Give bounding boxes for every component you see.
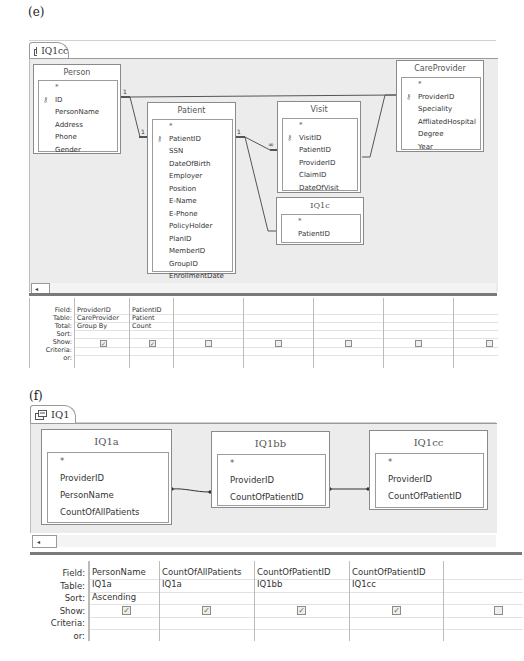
field-star[interactable]: * bbox=[39, 81, 117, 94]
table-title: CareProvider bbox=[397, 61, 483, 75]
field-star[interactable]: * bbox=[282, 215, 360, 228]
field-degree[interactable]: Degree bbox=[402, 128, 480, 141]
card-1-person: 1 bbox=[123, 88, 127, 95]
show-checkbox[interactable]: ✓ bbox=[149, 340, 156, 347]
table-iq1a[interactable]: IQ1a * ProviderID PersonName CountOfAllP… bbox=[41, 429, 172, 525]
show-checkbox[interactable] bbox=[275, 340, 282, 347]
field-star[interactable]: * bbox=[376, 454, 483, 471]
grid-column-5[interactable] bbox=[443, 561, 524, 641]
primary-key-icon: ⚷ bbox=[43, 94, 48, 107]
field-patientid[interactable]: ⚷PatientID bbox=[153, 133, 232, 146]
table-iq1c[interactable]: IQ1c * PatientID bbox=[276, 197, 364, 245]
field-countofallpatients[interactable]: CountOfAllPatients bbox=[48, 504, 168, 521]
horizontal-scrollbar-e[interactable]: ◂ bbox=[31, 283, 496, 293]
show-checkbox[interactable]: ✓ bbox=[392, 606, 401, 615]
field-personname[interactable]: PersonName bbox=[48, 487, 168, 504]
show-checkbox[interactable]: ✓ bbox=[100, 340, 107, 347]
card-1-patient: 1 bbox=[141, 128, 145, 135]
primary-key-icon: ⚷ bbox=[157, 133, 162, 146]
table-iq1cc[interactable]: IQ1cc * ProviderID CountOfPatientID bbox=[369, 430, 488, 510]
field-providerid[interactable]: ProviderID bbox=[48, 470, 168, 487]
field-star[interactable]: * bbox=[218, 455, 325, 472]
row-labels: Field: Table: Total: Sort: Show: Criteri… bbox=[30, 306, 72, 362]
show-checkbox[interactable] bbox=[345, 340, 352, 347]
field-providerid[interactable]: ⚷ProviderID bbox=[402, 91, 480, 104]
grid-column-5[interactable] bbox=[313, 298, 384, 368]
field-ssn[interactable]: SSN bbox=[153, 145, 232, 158]
table-person[interactable]: Person * ⚷ID PersonName Address Phone Ge… bbox=[33, 64, 121, 154]
show-checkbox[interactable]: ✓ bbox=[202, 606, 211, 615]
field-dateofbirth[interactable]: DateOfBirth bbox=[153, 158, 232, 171]
field-star[interactable]: * bbox=[153, 120, 232, 133]
table-title: Patient bbox=[148, 103, 235, 117]
field-gender[interactable]: Gender bbox=[39, 144, 117, 157]
pane-splitter-e[interactable] bbox=[29, 293, 497, 296]
table-title: IQ1a bbox=[42, 430, 171, 452]
horizontal-scrollbar-f[interactable]: ◂ bbox=[32, 535, 496, 547]
field-star[interactable]: * bbox=[402, 78, 480, 91]
field-countofpatientid[interactable]: CountOfPatientID bbox=[218, 489, 325, 506]
grid-column-2[interactable]: PatientID Patient Count ✓ bbox=[129, 298, 174, 368]
table-iq1bb[interactable]: IQ1bb * ProviderID CountOfPatientID bbox=[211, 431, 330, 508]
grid-column-2[interactable]: CountOfAllPatients IQ1a ✓ bbox=[159, 561, 255, 641]
query-grid-e: Field: Table: Total: Sort: Show: Criteri… bbox=[29, 298, 498, 368]
field-enrollmentdate[interactable]: EnrollmentDate bbox=[153, 270, 232, 283]
field-providerid[interactable]: ProviderID bbox=[283, 157, 357, 170]
field-dateofvisit[interactable]: DateOfVisit bbox=[283, 182, 357, 195]
grid-column-6[interactable] bbox=[383, 298, 454, 368]
pane-splitter-f[interactable] bbox=[30, 552, 522, 555]
grid-column-3[interactable]: CountOfPatientID IQ1bb ✓ bbox=[254, 561, 350, 641]
field-providerid[interactable]: ProviderID bbox=[218, 472, 325, 489]
field-groupid[interactable]: GroupID bbox=[153, 258, 232, 271]
table-patient[interactable]: Patient * ⚷PatientID SSN DateOfBirth Emp… bbox=[147, 102, 236, 274]
field-policyholder[interactable]: PolicyHolder bbox=[153, 220, 232, 233]
table-title: Person bbox=[34, 65, 120, 79]
field-providerid[interactable]: ProviderID bbox=[376, 471, 483, 488]
field-planid[interactable]: PlanID bbox=[153, 233, 232, 246]
grid-column-1[interactable]: ProviderID CareProvider Group By ✓ bbox=[74, 298, 130, 368]
field-employer[interactable]: Employer bbox=[153, 170, 232, 183]
field-visitid[interactable]: ⚷VisitID bbox=[283, 132, 357, 145]
field-patientid[interactable]: PatientID bbox=[282, 228, 360, 241]
show-checkbox[interactable] bbox=[486, 340, 493, 347]
table-careprovider[interactable]: CareProvider * ⚷ProviderID Speciality Af… bbox=[396, 60, 484, 152]
table-title: IQ1c bbox=[277, 198, 363, 212]
field-memberid[interactable]: MemberID bbox=[153, 245, 232, 258]
grid-column-7[interactable] bbox=[453, 298, 499, 368]
field-star[interactable]: * bbox=[283, 119, 357, 132]
table-title: IQ1cc bbox=[370, 431, 487, 453]
card-many-visit: ∞ bbox=[268, 141, 274, 149]
field-e-phone[interactable]: E-Phone bbox=[153, 208, 232, 221]
table-visit[interactable]: Visit * ⚷VisitID PatientID ProviderID Cl… bbox=[277, 101, 361, 193]
primary-key-icon: ⚷ bbox=[287, 132, 292, 145]
show-checkbox[interactable] bbox=[494, 606, 503, 615]
show-checkbox[interactable] bbox=[415, 340, 422, 347]
field-patientid[interactable]: PatientID bbox=[283, 144, 357, 157]
field-id[interactable]: ⚷ID bbox=[39, 94, 117, 107]
table-title: Visit bbox=[278, 102, 360, 116]
field-countofpatientid[interactable]: CountOfPatientID bbox=[376, 488, 483, 505]
grid-column-4[interactable] bbox=[243, 298, 314, 368]
field-claimid[interactable]: ClaimID bbox=[283, 169, 357, 182]
scroll-thumb[interactable] bbox=[44, 535, 57, 548]
field-affliatedhospital[interactable]: AffliatedHospital bbox=[402, 116, 480, 129]
query-grid-f: Field: Table: Sort: Show: Criteria: or: … bbox=[88, 561, 523, 641]
primary-key-icon: ⚷ bbox=[406, 91, 411, 104]
show-checkbox[interactable]: ✓ bbox=[297, 606, 306, 615]
show-checkbox[interactable]: ✓ bbox=[122, 606, 131, 615]
grid-column-4[interactable]: CountOfPatientID IQ1cc ✓ bbox=[349, 561, 444, 641]
field-phone[interactable]: Phone bbox=[39, 131, 117, 144]
grid-column-3[interactable] bbox=[173, 298, 244, 368]
field-star[interactable]: * bbox=[48, 453, 168, 470]
field-year[interactable]: Year bbox=[402, 141, 480, 154]
card-1-patient-visit: 1 bbox=[237, 128, 241, 135]
grid-column-1[interactable]: PersonName IQ1a Ascending ✓ bbox=[89, 561, 160, 641]
row-labels: Field: Table: Sort: Show: Criteria: or: bbox=[1, 567, 85, 642]
table-title: IQ1bb bbox=[212, 432, 329, 454]
show-checkbox[interactable] bbox=[205, 340, 212, 347]
field-e-name[interactable]: E-Name bbox=[153, 195, 232, 208]
field-speciality[interactable]: Speciality bbox=[402, 103, 480, 116]
field-personname[interactable]: PersonName bbox=[39, 106, 117, 119]
field-position[interactable]: Position bbox=[153, 183, 232, 196]
field-address[interactable]: Address bbox=[39, 119, 117, 132]
